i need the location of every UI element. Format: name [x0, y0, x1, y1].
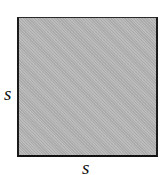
side-length-label-left: s — [4, 84, 11, 103]
side-length-label-bottom: s — [82, 158, 89, 175]
shaded-square — [17, 17, 158, 157]
